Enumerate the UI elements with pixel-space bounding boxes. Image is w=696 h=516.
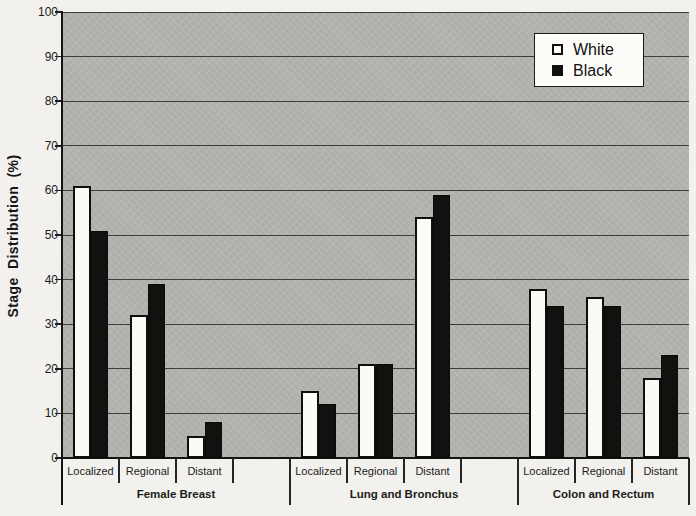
y-tick-label-70: 70	[24, 140, 58, 152]
bar-white-lung-and-bronchus-localized	[301, 391, 319, 458]
bar-black-colon-and-rectum-distant	[661, 355, 679, 458]
y-tick-label-10: 10	[24, 407, 58, 419]
y-tick-label-40: 40	[24, 274, 58, 286]
black-series-swatch-icon	[552, 65, 563, 76]
bar-black-female-breast-distant	[205, 422, 223, 458]
y-axis-line	[61, 12, 63, 505]
category-label-regional: Regional	[119, 464, 176, 478]
bar-white-colon-and-rectum-distant	[643, 378, 661, 458]
y-tick-label-90: 90	[24, 51, 58, 63]
white-series-swatch-icon	[552, 44, 563, 55]
bar-black-lung-and-bronchus-localized	[319, 404, 337, 458]
category-separator	[118, 458, 119, 483]
legend-label-white: White	[573, 41, 614, 59]
bar-black-colon-and-rectum-localized	[547, 306, 565, 458]
bar-black-female-breast-localized	[91, 231, 109, 458]
bar-white-female-breast-localized	[73, 186, 91, 458]
category-label-localized: Localized	[518, 464, 575, 478]
y-tick-label-60: 60	[24, 184, 58, 196]
bar-white-female-breast-regional	[130, 315, 148, 458]
category-separator	[232, 458, 233, 483]
gridline-60	[62, 190, 689, 191]
y-tick-label-30: 30	[24, 318, 58, 330]
category-label-distant: Distant	[176, 464, 233, 478]
bar-black-lung-and-bronchus-distant	[433, 195, 451, 458]
bar-black-lung-and-bronchus-regional	[376, 364, 394, 458]
bar-black-colon-and-rectum-regional	[604, 306, 622, 458]
legend: White Black	[534, 33, 644, 87]
stage-distribution-chart: Stage Distribution (%) 01020304050607080…	[0, 0, 696, 516]
gridline-70	[62, 145, 689, 146]
bar-white-lung-and-bronchus-distant	[415, 217, 433, 458]
category-separator	[346, 458, 347, 483]
y-tick-label-50: 50	[24, 229, 58, 241]
gridline-80	[62, 101, 689, 102]
bar-white-colon-and-rectum-localized	[529, 289, 547, 458]
category-separator	[403, 458, 404, 483]
legend-row-black: Black	[552, 62, 643, 80]
category-label-distant: Distant	[632, 464, 689, 478]
bar-black-female-breast-regional	[148, 284, 166, 458]
category-label-regional: Regional	[347, 464, 404, 478]
y-tick-label-20: 20	[24, 363, 58, 375]
bar-white-female-breast-distant	[187, 436, 205, 458]
group-label-colon-and-rectum: Colon and Rectum	[518, 487, 689, 501]
gridline-50	[62, 235, 689, 236]
category-label-regional: Regional	[575, 464, 632, 478]
category-separator	[574, 458, 575, 483]
category-separator	[631, 458, 632, 483]
legend-label-black: Black	[573, 62, 612, 80]
y-axis-title: Stage Distribution (%)	[5, 154, 21, 317]
category-separator	[460, 458, 461, 483]
y-tick-label-80: 80	[24, 95, 58, 107]
category-label-distant: Distant	[404, 464, 461, 478]
group-label-female-breast: Female Breast	[62, 487, 290, 501]
bar-white-lung-and-bronchus-regional	[358, 364, 376, 458]
category-label-localized: Localized	[62, 464, 119, 478]
gridline-40	[62, 279, 689, 280]
group-label-lung-and-bronchus: Lung and Bronchus	[290, 487, 518, 501]
category-label-localized: Localized	[290, 464, 347, 478]
y-tick-label-0: 0	[24, 452, 58, 464]
legend-row-white: White	[552, 41, 643, 59]
gridline-100	[62, 12, 689, 13]
y-tick-label-100: 100	[24, 6, 58, 18]
category-separator	[175, 458, 176, 483]
bar-white-colon-and-rectum-regional	[586, 297, 604, 458]
